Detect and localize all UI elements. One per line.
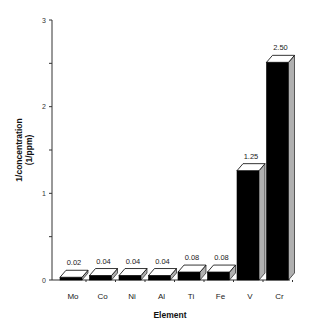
category-label: Fe [216,292,226,301]
bar-mo [60,270,88,280]
y-tick-label: 0 [42,277,46,284]
bar-co [90,269,118,280]
bar-v [237,164,265,280]
category-label: Al [158,292,165,301]
category-label: Ni [128,292,136,301]
y-axis-title: 1/concentration(1/ppm) [14,118,34,181]
y-tick-label: 2 [42,103,46,110]
value-label: 1.25 [244,152,259,161]
value-label: 0.04 [96,257,111,266]
category-label: Mo [67,292,79,301]
x-axis-title: Element [153,310,186,320]
category-label: Co [97,292,108,301]
value-label: 0.04 [126,257,141,266]
svg-text:1/concentration: 1/concentration [14,118,24,181]
category-label: V [247,292,253,301]
value-label: 2.50 [273,43,288,52]
bar-cr [267,55,295,280]
bar-ti [178,265,206,280]
bar-al [149,269,177,280]
bar-ni [119,269,147,280]
value-label: 0.04 [155,257,170,266]
value-label: 0.08 [214,253,229,262]
category-label: Ti [188,292,195,301]
bar-fe [208,265,236,280]
y-tick-label: 1 [42,190,46,197]
bar-chart: 01231/concentration(1/ppm)0.02Mo0.04Co0.… [0,0,318,336]
category-label: Cr [275,292,284,301]
value-label: 0.08 [185,253,200,262]
value-label: 0.02 [67,258,82,267]
y-tick-label: 3 [42,17,46,24]
svg-text:(1/ppm): (1/ppm) [24,134,34,165]
